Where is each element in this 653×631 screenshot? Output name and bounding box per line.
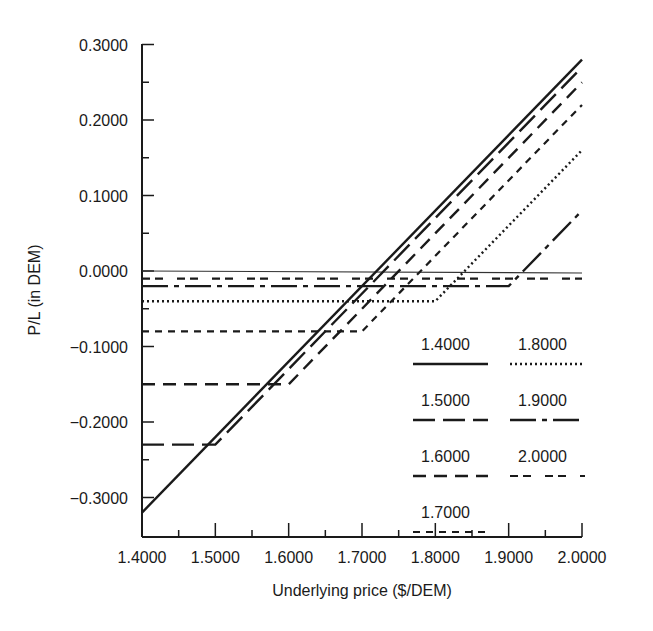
y-tick-label: −0.1000 [70,339,128,356]
y-tick-label: 0.0000 [79,263,128,280]
series-line-1-7000 [142,105,582,332]
legend-label: 1.8000 [518,336,567,353]
zero-line [142,271,582,273]
x-tick-label: 1.9000 [484,549,533,566]
series-line-1-5000 [142,67,582,445]
legend-label: 1.4000 [421,336,470,353]
legend-label: 1.5000 [421,392,470,409]
legend-label: 2.0000 [518,448,567,465]
x-tick-label: 1.6000 [264,549,313,566]
legend-label: 1.7000 [421,504,470,521]
y-tick-label: −0.3000 [70,490,128,507]
y-tick-label: −0.2000 [70,414,128,431]
plot-lines [142,60,582,513]
y-tick-label: 0.2000 [79,112,128,129]
legend: 1.40001.50001.60001.70001.80001.90002.00… [413,336,585,532]
y-axis-title: P/L (in DEM) [26,245,43,336]
legend-label: 1.6000 [421,448,470,465]
x-axis-title: Underlying price ($/DEM) [272,582,452,599]
x-tick-label: 1.7000 [338,549,387,566]
series-line-1-9000 [142,211,582,287]
y-tick-label: 0.3000 [79,37,128,54]
y-tick-label: 0.1000 [79,188,128,205]
payoff-chart: 0.30000.20000.10000.0000−0.1000−0.2000−0… [0,0,653,631]
x-tick-label: 2.0000 [558,549,607,566]
x-tick-label: 1.5000 [191,549,240,566]
legend-label: 1.9000 [518,392,567,409]
x-tick-label: 1.8000 [411,549,460,566]
x-tick-label: 1.4000 [118,549,167,566]
